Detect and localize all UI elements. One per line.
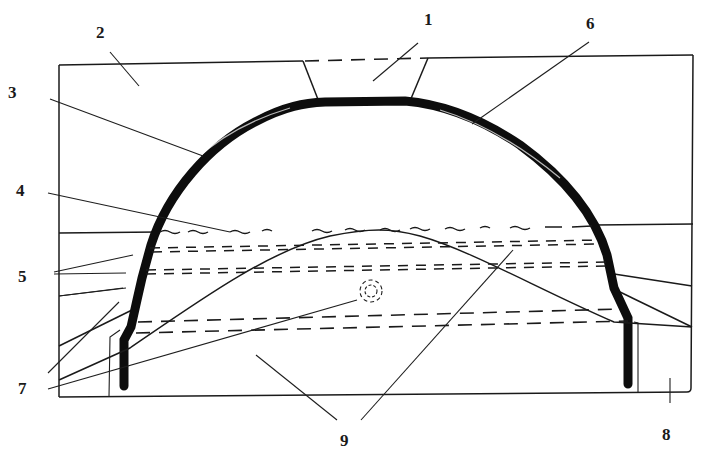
arch-lining bbox=[124, 101, 628, 386]
dashed-layers bbox=[136, 240, 628, 333]
label-2: 2 bbox=[96, 23, 105, 42]
label-4: 4 bbox=[16, 181, 25, 200]
tunnel-cross-section-diagram: 1 2 3 4 5 6 7 8 9 bbox=[0, 0, 707, 459]
label-8: 8 bbox=[662, 425, 671, 444]
label-5: 5 bbox=[18, 267, 27, 286]
callout-labels: 1 2 3 4 5 6 7 8 9 bbox=[8, 10, 671, 450]
label-1: 1 bbox=[424, 10, 433, 29]
footing-outlines bbox=[109, 322, 638, 397]
label-9: 9 bbox=[340, 431, 349, 450]
label-3: 3 bbox=[8, 83, 17, 102]
label-6: 6 bbox=[586, 14, 595, 33]
label-7: 7 bbox=[18, 379, 27, 398]
bubble-symbol bbox=[360, 280, 382, 302]
